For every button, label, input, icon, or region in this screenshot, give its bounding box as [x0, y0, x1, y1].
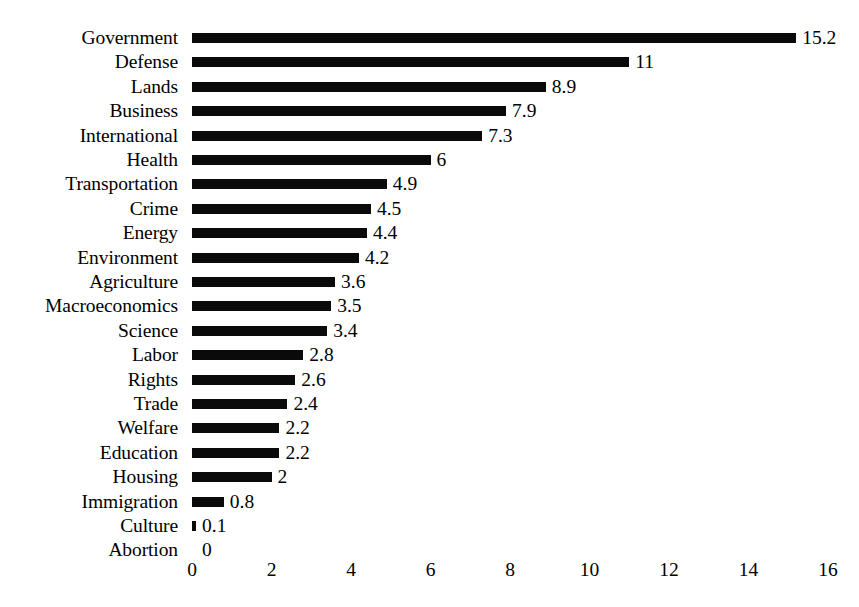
bar [192, 253, 359, 263]
category-label: Rights [0, 368, 178, 392]
bar-row: Welfare2.2 [0, 416, 859, 440]
bar-row: Energy4.4 [0, 221, 859, 245]
category-label: Energy [0, 221, 178, 245]
bar-row: Macroeconomics3.5 [0, 294, 859, 318]
category-label: Trade [0, 392, 178, 416]
bar-row: Immigration0.8 [0, 490, 859, 514]
bar [192, 33, 796, 43]
category-label: Welfare [0, 416, 178, 440]
bar-row: Trade2.4 [0, 392, 859, 416]
bar-row: Rights2.6 [0, 368, 859, 392]
bar-row: Science3.4 [0, 319, 859, 343]
category-label: Environment [0, 246, 178, 270]
bar [192, 131, 482, 141]
bar-value-label: 2.4 [293, 392, 317, 416]
bar-value-label: 4.9 [393, 172, 417, 196]
bar-row: Labor2.8 [0, 343, 859, 367]
bar [192, 106, 506, 116]
bar [192, 82, 546, 92]
bar-value-label: 2.2 [285, 416, 309, 440]
bar-row: Housing2 [0, 465, 859, 489]
bar-row: Agriculture3.6 [0, 270, 859, 294]
bar-value-label: 3.6 [341, 270, 365, 294]
bar-row: Crime4.5 [0, 197, 859, 221]
bar [192, 472, 272, 482]
bar [192, 277, 335, 287]
bar-value-label: 4.4 [373, 221, 397, 245]
x-axis-tick-label: 10 [580, 556, 600, 584]
bar [192, 350, 303, 360]
bar-row: Government15.2 [0, 26, 859, 50]
bar-chart: Government15.2Defense11Lands8.9Business7… [0, 0, 859, 607]
x-axis-tick-label: 2 [267, 556, 277, 584]
bar [192, 204, 371, 214]
bar-value-label: 11 [635, 50, 654, 74]
bar-value-label: 0.1 [202, 514, 226, 538]
bar-value-label: 4.5 [377, 197, 401, 221]
x-axis-tick-label: 12 [659, 556, 679, 584]
category-label: Housing [0, 465, 178, 489]
category-label: Business [0, 99, 178, 123]
bar-value-label: 15.2 [802, 26, 836, 50]
bar [192, 521, 196, 531]
bar-row: Health6 [0, 148, 859, 172]
bar-row: Business7.9 [0, 99, 859, 123]
bar-value-label: 2.2 [285, 441, 309, 465]
category-label: Lands [0, 75, 178, 99]
x-axis-tick-label: 16 [818, 556, 838, 584]
bar [192, 326, 327, 336]
bar [192, 375, 295, 385]
category-label: Macroeconomics [0, 294, 178, 318]
category-label: Transportation [0, 172, 178, 196]
bar [192, 228, 367, 238]
bar-value-label: 2 [278, 465, 288, 489]
bar-value-label: 2.8 [309, 343, 333, 367]
bar-value-label: 7.9 [512, 99, 536, 123]
bar-row: Culture0.1 [0, 514, 859, 538]
category-label: Health [0, 148, 178, 172]
bar-value-label: 2.6 [301, 368, 325, 392]
bar-value-label: 4.2 [365, 246, 389, 270]
category-label: Labor [0, 343, 178, 367]
bar-row: Lands8.9 [0, 75, 859, 99]
bar [192, 57, 629, 67]
x-axis-tick-label: 4 [346, 556, 356, 584]
bar [192, 497, 224, 507]
category-label: Government [0, 26, 178, 50]
bar-row: Education2.2 [0, 441, 859, 465]
x-axis-tick-label: 0 [187, 556, 197, 584]
category-label: Agriculture [0, 270, 178, 294]
bar [192, 179, 387, 189]
x-axis: 0246810121416 [0, 556, 859, 586]
category-label: Crime [0, 197, 178, 221]
x-axis-tick-label: 8 [505, 556, 515, 584]
category-label: Immigration [0, 490, 178, 514]
bar-value-label: 6 [437, 148, 447, 172]
x-axis-tick-label: 6 [426, 556, 436, 584]
category-label: International [0, 124, 178, 148]
bar-row: Environment4.2 [0, 246, 859, 270]
bar [192, 301, 331, 311]
bar [192, 448, 279, 458]
bar-row: Transportation4.9 [0, 172, 859, 196]
bar-value-label: 8.9 [552, 75, 576, 99]
bar-value-label: 3.5 [337, 294, 361, 318]
category-label: Education [0, 441, 178, 465]
category-label: Culture [0, 514, 178, 538]
bar-row: Defense11 [0, 50, 859, 74]
category-label: Science [0, 319, 178, 343]
x-axis-tick-label: 14 [739, 556, 759, 584]
bar-value-label: 7.3 [488, 124, 512, 148]
bar [192, 423, 279, 433]
category-label: Defense [0, 50, 178, 74]
bar [192, 399, 287, 409]
bar-value-label: 3.4 [333, 319, 357, 343]
bar-row: International7.3 [0, 124, 859, 148]
bar [192, 155, 431, 165]
bar-value-label: 0.8 [230, 490, 254, 514]
